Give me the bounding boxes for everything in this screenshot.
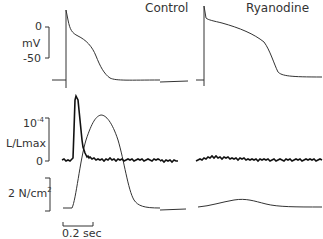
- ryanodine-luminescence: [160, 156, 322, 162]
- ryanodine-tension: [160, 199, 322, 210]
- control-luminescence: [62, 96, 160, 161]
- ryanodine-action-potential: [160, 6, 322, 86]
- figure-traces: [0, 0, 323, 239]
- tension-scale-bar: [45, 178, 50, 211]
- control-tension: [63, 115, 160, 208]
- time-scale-bar: [63, 222, 93, 226]
- voltage-scale-bar: [45, 27, 49, 58]
- control-action-potential: [52, 10, 160, 88]
- luminescence-scale-bar: [45, 118, 49, 161]
